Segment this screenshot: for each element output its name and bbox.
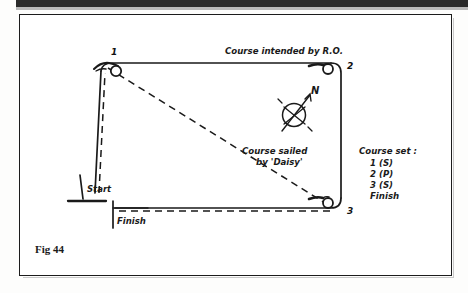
figure-caption: Fig 44	[35, 243, 65, 255]
course-set-legend: Course set : 1 (S) 2 (P) 3 (S) Finish	[359, 146, 417, 201]
mark-label-1: 1	[111, 47, 117, 57]
finish-label: Finish	[117, 216, 146, 226]
page-canvas: 1 2 3 Start	[0, 0, 468, 293]
intended-course-label: Course intended by R.O.	[225, 46, 343, 56]
course-diagram: 1 2 3 Start	[20, 15, 453, 277]
buoy-mark-icon-3	[309, 197, 333, 208]
figure-frame: 1 2 3 Start	[19, 14, 452, 276]
mark-label-2: 2	[347, 61, 353, 71]
compass-rose-icon	[278, 94, 312, 131]
page-top-scan-artifact	[16, 0, 468, 7]
course-set-title: Course set :	[359, 146, 417, 156]
course-set-item-4: Finish	[370, 191, 399, 201]
course-set-item-3: 3 (S)	[370, 180, 393, 190]
mark-label-3: 3	[347, 206, 353, 216]
intended-course-path	[95, 63, 341, 208]
sailed-course-path	[99, 68, 330, 211]
sailed-course-label-line1: Course sailed	[242, 146, 308, 156]
north-label: N	[311, 85, 320, 96]
page-top-scan-artifact-light	[16, 7, 468, 10]
sailed-course-label-line2: by 'Daisy'	[256, 157, 303, 167]
buoy-mark-icon-2	[309, 64, 333, 74]
course-set-item-1: 1 (S)	[370, 158, 393, 168]
course-set-item-2: 2 (P)	[370, 169, 393, 179]
start-label: Start	[87, 184, 112, 194]
buoy-mark-icon-1	[94, 63, 121, 76]
